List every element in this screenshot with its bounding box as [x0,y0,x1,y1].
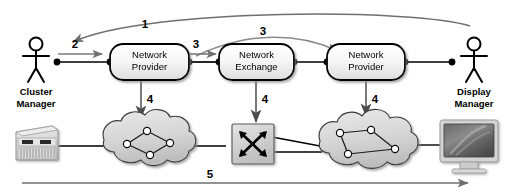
cloud-node [166,139,173,146]
display-manager-label-line1: Display [457,86,492,97]
cloud-node [391,145,398,152]
connector-dot [449,59,456,66]
step-3b-label: 3 [260,25,266,37]
network-cloud-left [103,110,196,166]
step-4b-label: 4 [262,93,269,105]
network-cloud-right [319,109,418,168]
network-provisioning-diagram: Network Provider Network Exchange Networ… [0,0,512,194]
connector-dot [54,59,61,66]
step-1-label: 1 [142,18,149,30]
display-manager-label: Display Manager [454,86,493,109]
cloud-node [123,140,130,147]
network-exchange-node[interactable]: Network Exchange [219,44,294,80]
diagram-canvas: Network Provider Network Exchange Networ… [0,0,512,194]
server-icon [16,126,58,160]
network-exchange-label-line2: Exchange [235,61,277,72]
step-4a-label: 4 [147,93,154,105]
step-2-label: 2 [72,38,78,50]
cloud-node [146,151,153,158]
step-4-arrows [141,80,366,122]
step-5-label: 5 [207,168,214,180]
display-manager-actor [461,38,487,83]
network-provider-left-node[interactable]: Network Provider [110,44,189,80]
cloud-node [143,127,150,134]
cluster-manager-label-line2: Manager [16,98,55,109]
cloud-node [344,150,351,157]
switch-icon [232,124,274,164]
network-provider-right-label-line1: Network [349,49,384,60]
step-4c-label: 4 [372,93,379,105]
network-provider-right-label-line2: Provider [348,61,383,72]
cloud-node [367,126,374,133]
network-exchange-label-line1: Network [239,49,274,60]
monitor-icon [440,120,498,173]
cluster-manager-label-line1: Cluster [20,86,53,97]
cluster-manager-label: Cluster Manager [16,86,55,109]
cluster-manager-actor [23,38,49,83]
network-provider-left-label-line2: Provider [132,61,167,72]
step-3a-label: 3 [193,38,199,50]
network-provider-left-label-line1: Network [132,49,167,60]
display-manager-label-line2: Manager [454,98,493,109]
cloud-node [336,129,343,136]
network-provider-right-node[interactable]: Network Provider [327,44,405,80]
